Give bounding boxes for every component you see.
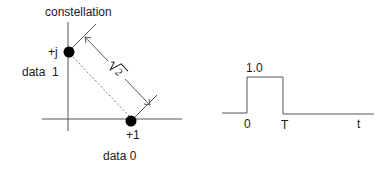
constellation-point-1 (126, 116, 137, 127)
dimension-line-upper (85, 37, 108, 61)
data-1-label: data 1 (22, 66, 59, 78)
sqrt-2-label: 2 (106, 58, 128, 80)
pulse-start-label: 0 (244, 118, 251, 130)
data-0-label: data 0 (103, 150, 136, 162)
pulse-end-label: T (281, 119, 288, 131)
constellation-title: constellation (45, 6, 112, 18)
point-j-label: +j (48, 46, 58, 58)
dimension-line-lower (125, 79, 150, 105)
dimension-extension-bottom (135, 95, 157, 117)
rectangular-pulse (222, 77, 374, 114)
diagram-canvas: 2 (0, 0, 391, 171)
pulse-amplitude-label: 1.0 (246, 62, 263, 74)
constellation-point-j (64, 47, 75, 58)
time-axis-label: t (357, 118, 360, 130)
point-1-label: +1 (126, 129, 140, 141)
